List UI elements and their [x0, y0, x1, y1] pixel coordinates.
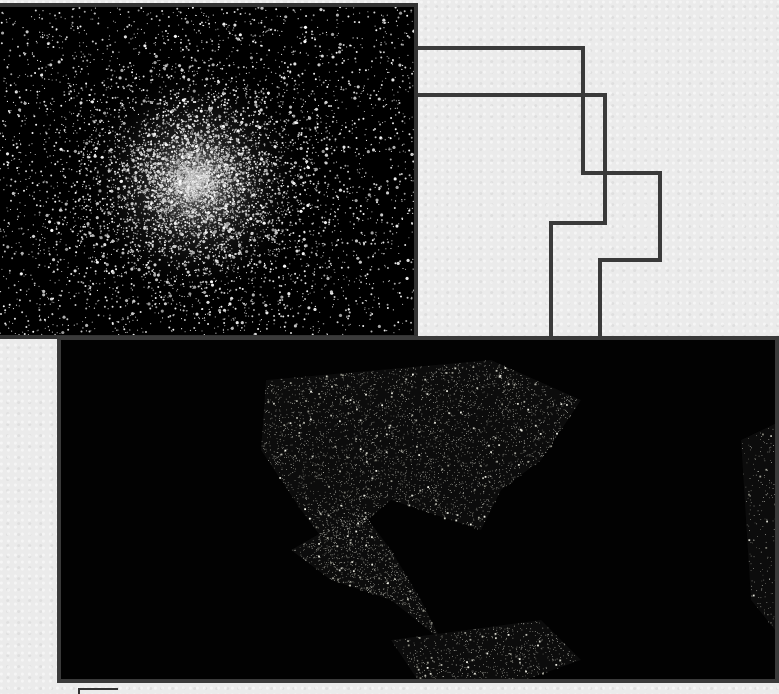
scale-bracket	[78, 688, 118, 694]
star-cluster-image	[0, 3, 418, 339]
earth-night-canvas	[61, 340, 775, 679]
connector-line	[418, 48, 660, 338]
connector-line	[418, 95, 605, 338]
earth-night-image	[57, 336, 779, 683]
star-cluster-canvas	[0, 7, 414, 335]
